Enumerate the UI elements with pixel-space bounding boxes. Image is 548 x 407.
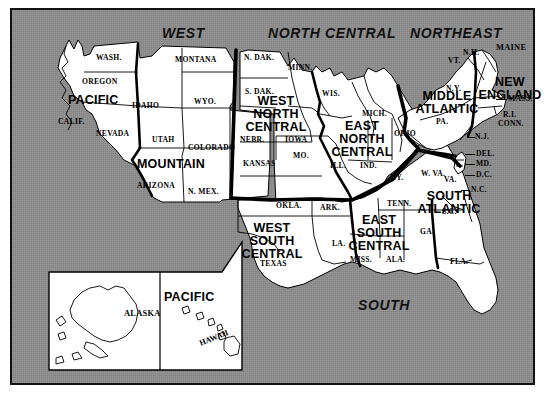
state-label-montana: MONTANA (175, 56, 217, 64)
enc-line3: CENTRAL (324, 146, 400, 159)
wsc-line1: WEST (234, 222, 310, 235)
wnc-line2: NORTH (238, 108, 314, 121)
division-label-east-north-central: EAST NORTH CENTRAL (324, 120, 400, 158)
state-label-ny: N.Y. (446, 85, 461, 93)
state-label-texas: TEXAS (260, 260, 287, 268)
census-regions-map: .land{fill:#ffffff;stroke:#000;stroke-wi… (0, 0, 548, 407)
state-label-wash: WASH. (96, 54, 122, 62)
state-label-mo: MO. (293, 152, 309, 160)
state-label-del: DEL. (476, 150, 495, 158)
state-label-sc: S.C. (442, 208, 457, 216)
state-label-md: MD. (476, 160, 491, 168)
state-label-ind: IND. (360, 162, 377, 170)
enc-line2: NORTH (324, 133, 400, 146)
state-label-nebr: NEBR. (240, 136, 265, 144)
ne-line1: NEW (474, 76, 546, 89)
map-frame: .land{fill:#ffffff;stroke:#000;stroke-wi… (10, 8, 535, 385)
state-label-nevada: NEVADA (96, 130, 129, 138)
esc-line1: EAST (342, 214, 416, 227)
enc-line1: EAST (324, 120, 400, 133)
state-label-minn: MINN. (288, 64, 313, 72)
state-label-wyo: WYO. (194, 98, 216, 106)
state-label-ala: ALA. (386, 256, 405, 264)
state-label-utah: UTAH (152, 136, 175, 144)
state-label-wva: W. VA. (421, 170, 445, 178)
state-label-nmex: N. MEX. (188, 188, 219, 196)
region-label-south: SOUTH (358, 298, 410, 312)
state-label-nj: N.J. (475, 133, 489, 141)
state-label-ri: R.I. (503, 111, 516, 119)
region-label-west: WEST (162, 26, 205, 40)
state-label-ark: ARK. (320, 204, 340, 212)
esc-line2: SOUTH (342, 227, 416, 240)
leader-line-dc (465, 175, 475, 176)
state-label-maine: MAINE (496, 44, 526, 52)
state-label-okla: OKLA. (276, 202, 302, 210)
state-label-fla: FLA. (450, 258, 468, 266)
state-label-mass: MASS. (508, 95, 533, 103)
division-label-west-south-central: WEST SOUTH CENTRAL (234, 222, 310, 260)
division-label-pacific: PACIFIC (68, 94, 118, 107)
state-label-ill: ILL. (330, 162, 346, 170)
state-label-ky: KY. (390, 174, 404, 182)
state-label-dc: D.C. (476, 171, 492, 179)
inset-panel (49, 242, 242, 370)
state-label-mich: MICH. (362, 110, 387, 118)
state-label-nc: N.C. (471, 186, 487, 194)
state-label-colorado: COLORADO (188, 144, 235, 152)
leader-line-nc (461, 190, 470, 191)
division-label-mountain: MOUNTAIN (137, 158, 205, 171)
state-label-pa: PA. (436, 118, 448, 126)
state-label-vt: VT. (448, 57, 461, 65)
division-label-pacific-inset: PACIFIC (164, 291, 214, 304)
state-label-miss: MISS. (350, 256, 372, 264)
state-label-va: VA. (444, 176, 457, 184)
state-label-kansas: KANSAS (243, 160, 276, 168)
state-label-iowa: IOWA (285, 136, 307, 144)
leader-line-nj (467, 137, 475, 138)
esc-line3: CENTRAL (342, 240, 416, 253)
region-label-northeast: NORTHEAST (410, 26, 502, 40)
wsc-line2: SOUTH (234, 235, 310, 248)
state-label-calif: CALIF. (58, 118, 85, 126)
state-label-nh: N.H. (463, 49, 479, 57)
state-label-tenn: TENN. (387, 200, 412, 208)
state-label-idaho: IDAHO (132, 102, 159, 110)
region-label-north-central: NORTH CENTRAL (268, 26, 396, 40)
state-label-sdak: S. DAK. (245, 88, 274, 96)
division-label-east-south-central: EAST SOUTH CENTRAL (342, 214, 416, 252)
state-label-arizona: ARIZONA (137, 182, 175, 190)
wnc-line3: CENTRAL (238, 121, 314, 134)
state-label-wis: WIS. (322, 90, 340, 98)
state-label-alaska: ALASKA (124, 310, 161, 318)
state-label-ga: GA. (420, 228, 434, 236)
wnc-line1: WEST (238, 95, 314, 108)
state-label-conn: CONN. (498, 120, 524, 128)
state-label-ndak: N. DAK. (244, 54, 274, 62)
state-label-ohio: OHIO (394, 130, 416, 138)
leader-line-del (465, 154, 475, 155)
leader-line-md (465, 164, 475, 165)
division-label-west-north-central: WEST NORTH CENTRAL (238, 95, 314, 133)
ma-line2: ATLANTIC (408, 103, 486, 116)
leader-line-mass (496, 99, 507, 100)
state-label-la: LA. (332, 240, 345, 248)
state-label-oregon: OREGON (82, 78, 118, 86)
